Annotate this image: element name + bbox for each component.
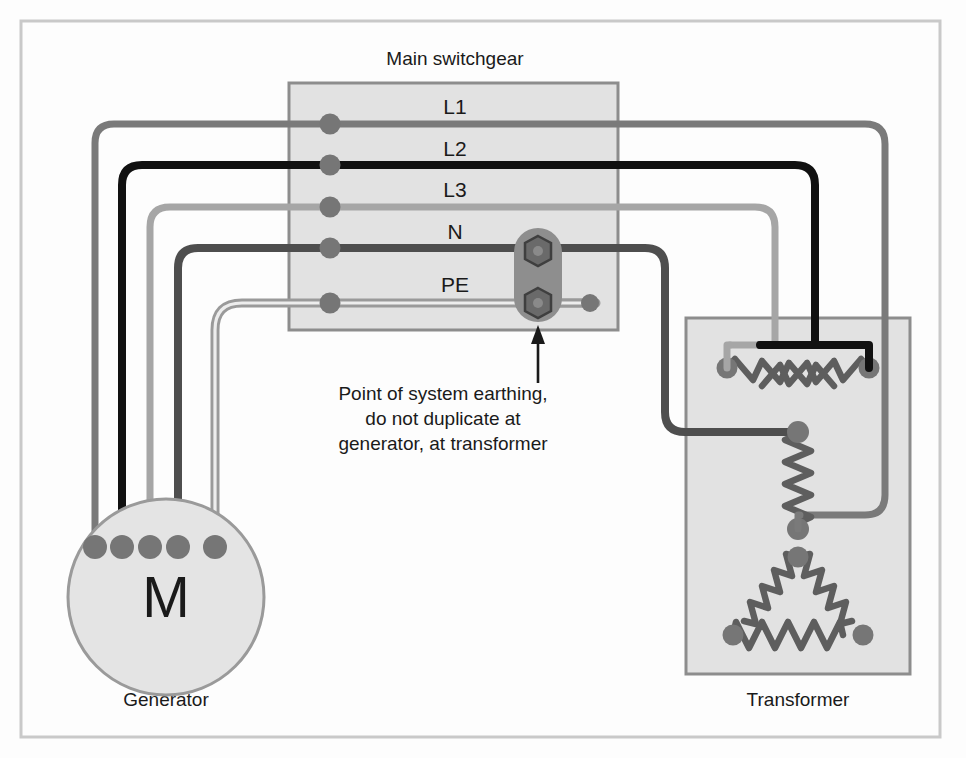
generator-symbol: M — [142, 565, 189, 629]
diagram-canvas: L1 L2 L3 N PE Main switchgear Generator … — [0, 0, 966, 758]
generator-terminal-L2 — [110, 535, 134, 559]
annotation-line-1: Point of system earthing, — [338, 383, 547, 404]
terminal-dot-L3 — [320, 197, 341, 218]
bus-label-L2: L2 — [443, 137, 466, 160]
star-stub-L3 — [727, 345, 730, 368]
terminal-dot-PE — [320, 293, 341, 314]
main-switchgear-title: Main switchgear — [386, 48, 524, 69]
star-stub-L1 — [798, 515, 800, 529]
bus-label-L3: L3 — [443, 178, 466, 201]
earthing-bolt-lower — [525, 288, 551, 318]
bus-label-PE: PE — [441, 273, 469, 296]
bus-label-L1: L1 — [443, 95, 466, 118]
annotation-line-2: do not duplicate at — [365, 408, 521, 429]
delta-node-bottom-right — [853, 625, 874, 646]
star-node-centre — [787, 421, 809, 443]
pe-stub-node — [581, 294, 599, 312]
delta-node-top — [788, 547, 809, 568]
generator-terminal-PE — [203, 535, 227, 559]
generator-terminal-N — [166, 535, 190, 559]
terminal-dot-N — [320, 238, 341, 259]
annotation-line-3: generator, at transformer — [338, 433, 548, 454]
transformer-title: Transformer — [747, 689, 850, 710]
wiring-diagram-svg: L1 L2 L3 N PE Main switchgear Generator … — [0, 0, 966, 758]
bus-label-N: N — [447, 220, 462, 243]
generator-terminal-L1 — [83, 535, 107, 559]
delta-node-bottom-left — [723, 625, 744, 646]
generator-terminal-L3 — [138, 535, 162, 559]
terminal-dot-L1 — [320, 114, 341, 135]
earthing-bolt-upper — [525, 236, 551, 266]
terminal-dot-L2 — [320, 155, 341, 176]
